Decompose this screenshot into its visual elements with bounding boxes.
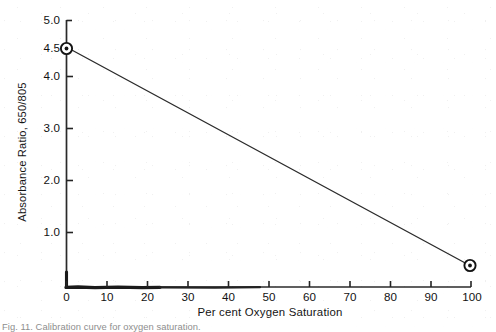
x-axis-tick-label-50: 50 [252,290,286,303]
data-line-series-1 [69,49,468,265]
x-axis-tick-label-60: 60 [293,290,327,303]
x-axis-tick-label-90: 90 [414,290,448,303]
x-axis-tick-label-100: 100 [455,290,489,303]
x-axis-tick-label-40: 40 [212,290,246,303]
x-axis-tick-label-80: 80 [374,290,408,303]
x-axis-line-left-blot [66,287,160,288]
y-axis-title: Absorbance Ratio, 650/805 [11,6,33,298]
x-axis-tick-label-70: 70 [333,290,367,303]
x-axis-tick-label-0: 0 [50,290,84,303]
data-point-marker-100pct [464,260,475,271]
x-axis-tick-label-20: 20 [131,290,165,303]
figure-caption: Fig. 11. Calibration curve for oxygen sa… [2,321,332,332]
line-chart-plot [0,0,496,332]
figure-container: 5.0 4.5 4.0 3.0 2.0 1.0 0 10 20 30 40 50… [0,0,496,332]
data-point-marker-0pct [61,43,72,54]
x-axis-tick-label-10: 10 [90,290,124,303]
x-axis-title: Per cent Oxygen Saturation [60,306,480,318]
x-axis-tick-label-30: 30 [171,290,205,303]
